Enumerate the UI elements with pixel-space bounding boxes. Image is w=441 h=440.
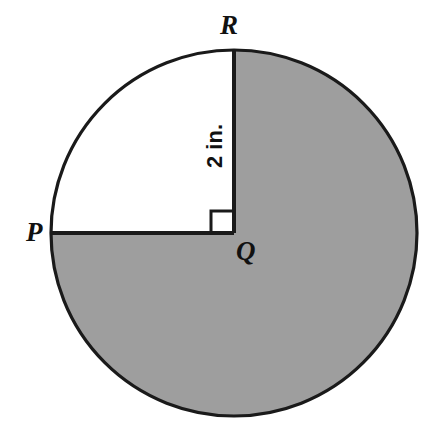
vertex-label-r: R [220,12,238,39]
vertex-label-q: Q [236,238,256,265]
circle-diagram-svg [0,0,441,440]
circle-diagram: R P Q 2 in. [0,0,441,440]
measurement-label-radius: 2 in. [203,102,227,190]
vertex-label-p: P [26,219,43,246]
measurement-label-text: 2 in. [204,124,226,168]
